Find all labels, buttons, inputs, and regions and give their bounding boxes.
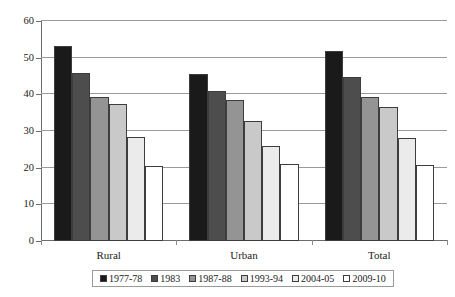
bar-total-1983 bbox=[343, 77, 361, 241]
legend-item-1983[interactable]: 1983 bbox=[151, 274, 180, 284]
bar-rural-1987-88 bbox=[90, 97, 108, 241]
bar-rural-1983 bbox=[72, 73, 90, 241]
bar-total-2004-05 bbox=[398, 138, 416, 241]
bar-rural-2004-05 bbox=[127, 137, 145, 242]
bar-group-total bbox=[312, 21, 447, 241]
y-tick-mark-30 bbox=[36, 131, 41, 132]
legend-label: 1977-78 bbox=[109, 274, 142, 284]
legend-item-1977-78[interactable]: 1977-78 bbox=[100, 274, 142, 284]
legend-label: 1983 bbox=[160, 274, 180, 284]
y-tick-label-20: 20 bbox=[4, 163, 34, 174]
legend-item-2009-10[interactable]: 2009-10 bbox=[343, 274, 385, 284]
bar-rural-2009-10 bbox=[145, 166, 163, 241]
bar-total-1987-88 bbox=[361, 97, 379, 241]
bar-urban-1983 bbox=[208, 91, 226, 241]
x-axis-label-urban: Urban bbox=[176, 249, 311, 261]
bar-urban-1977-78 bbox=[189, 74, 207, 241]
legend-swatch-icon-2004-05 bbox=[292, 275, 299, 282]
y-tick-mark-60 bbox=[36, 21, 41, 22]
plot-area bbox=[41, 21, 447, 241]
y-axis-labels: 6050403020100 bbox=[0, 0, 34, 297]
y-tick-mark-50 bbox=[36, 58, 41, 59]
y-tick-label-40: 40 bbox=[4, 89, 34, 100]
bar-urban-1987-88 bbox=[226, 100, 244, 241]
y-tick-mark-40 bbox=[36, 94, 41, 95]
bar-urban-1993-94 bbox=[244, 121, 262, 241]
y-tick-label-50: 50 bbox=[4, 53, 34, 64]
legend-item-2004-05[interactable]: 2004-05 bbox=[292, 274, 334, 284]
y-tick-label-10: 10 bbox=[4, 199, 34, 210]
bar-urban-2009-10 bbox=[280, 164, 298, 241]
bar-total-2009-10 bbox=[416, 165, 434, 241]
legend-label: 1987-88 bbox=[198, 274, 231, 284]
chart-legend: 1977-7819831987-881993-942004-052009-10 bbox=[92, 270, 394, 287]
legend-item-1987-88[interactable]: 1987-88 bbox=[189, 274, 231, 284]
bar-urban-2004-05 bbox=[262, 146, 280, 241]
x-axis-label-rural: Rural bbox=[41, 249, 176, 261]
x-axis-separator bbox=[447, 240, 448, 245]
bar-rural-1993-94 bbox=[109, 104, 127, 241]
y-tick-label-0: 0 bbox=[4, 236, 34, 247]
y-tick-mark-10 bbox=[36, 204, 41, 205]
y-tick-label-60: 60 bbox=[4, 16, 34, 27]
x-axis-separator bbox=[41, 240, 42, 245]
y-tick-mark-0 bbox=[36, 241, 41, 242]
bar-rural-1977-78 bbox=[54, 46, 72, 241]
bar-total-1977-78 bbox=[325, 51, 343, 241]
bar-group-rural bbox=[41, 21, 176, 241]
legend-swatch-icon-1983 bbox=[151, 275, 158, 282]
x-axis-label-total: Total bbox=[312, 249, 447, 261]
legend-label: 1993-94 bbox=[250, 274, 283, 284]
legend-swatch-icon-2009-10 bbox=[343, 275, 350, 282]
legend-label: 2004-05 bbox=[301, 274, 334, 284]
legend-swatch-icon-1993-94 bbox=[241, 275, 248, 282]
legend-label: 2009-10 bbox=[352, 274, 385, 284]
legend-swatch-icon-1977-78 bbox=[100, 275, 107, 282]
y-tick-label-30: 30 bbox=[4, 126, 34, 137]
bar-total-1993-94 bbox=[379, 107, 397, 241]
legend-item-1993-94[interactable]: 1993-94 bbox=[241, 274, 283, 284]
bar-group-urban bbox=[176, 21, 311, 241]
bar-chart-figure: 6050403020100 RuralUrbanTotal 1977-78198… bbox=[0, 0, 455, 297]
y-tick-mark-20 bbox=[36, 168, 41, 169]
legend-swatch-icon-1987-88 bbox=[189, 275, 196, 282]
